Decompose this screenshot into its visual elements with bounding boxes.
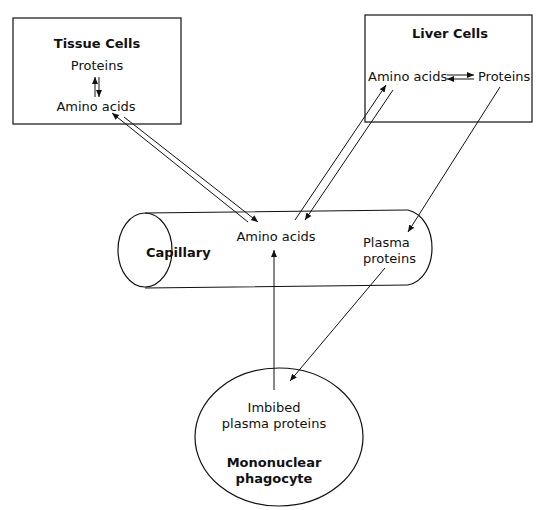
tissue-amino-acids-label: Amino acids (56, 99, 135, 114)
phagocyte-title-line2: phagocyte (236, 471, 313, 486)
capillary-to-liver-arrow (295, 85, 386, 220)
diagram-canvas (0, 0, 545, 510)
tissue-proteins-label: Proteins (71, 58, 123, 73)
plasma-proteins-line1: Plasma (363, 235, 410, 250)
plasma-proteins-line2: proteins (363, 251, 416, 266)
phagocyte-title-line1: Mononuclear (227, 455, 322, 470)
imbibed-line2: plasma proteins (222, 416, 326, 431)
liver-cells-title: Liver Cells (412, 26, 488, 41)
liver-amino-acids-label: Amino acids (368, 69, 447, 84)
capillary-right-end (408, 210, 432, 285)
liver-proteins-label: Proteins (478, 69, 530, 84)
liver-to-capillary-arrow (305, 90, 393, 220)
tissue-cells-title: Tissue Cells (54, 36, 140, 51)
capillary-to-tissue-arrow (112, 113, 248, 222)
imbibed-line1: Imbibed (248, 400, 301, 415)
plasma-to-phagocyte-arrow (290, 268, 385, 381)
capillary-label: Capillary (146, 245, 211, 260)
liver-proteins-to-plasma-arrow (408, 87, 500, 232)
tissue-to-capillary-arrow (124, 117, 258, 222)
capillary-amino-acids-label: Amino acids (236, 229, 315, 244)
